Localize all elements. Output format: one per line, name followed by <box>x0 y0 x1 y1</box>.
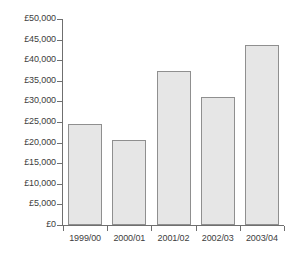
x-axis-tick-mark <box>196 226 197 231</box>
bar <box>157 71 191 225</box>
y-axis-tick-mark <box>57 81 62 82</box>
y-axis-tick-mark <box>57 60 62 61</box>
bar <box>201 97 235 225</box>
y-axis-label-group: £0£5,000£10,000£15,000£20,000£25,000£30,… <box>0 0 58 261</box>
y-axis-tick-label: £30,000 <box>0 96 56 105</box>
y-axis-tick-mark <box>57 184 62 185</box>
x-axis-tick-label: 2003/04 <box>237 233 287 243</box>
x-axis-tick-mark <box>107 226 108 231</box>
plot-area <box>63 19 284 225</box>
y-axis-tick-mark <box>57 19 62 20</box>
y-axis-tick-label: £25,000 <box>0 117 56 126</box>
x-axis-tick-mark <box>151 226 152 231</box>
y-axis-tick-label: £5,000 <box>0 199 56 208</box>
y-axis-tick-mark <box>57 122 62 123</box>
y-axis-tick-label: £10,000 <box>0 179 56 188</box>
y-axis-tick-label: £45,000 <box>0 35 56 44</box>
x-axis-tick-label: 2000/01 <box>104 233 154 243</box>
y-axis-tick-mark <box>57 40 62 41</box>
y-axis-tick-label: £40,000 <box>0 55 56 64</box>
x-axis-label-group: 1999/002000/012001/022002/032003/04 <box>63 233 293 249</box>
y-axis-tick-label: £15,000 <box>0 158 56 167</box>
x-axis-tick-mark <box>240 226 241 231</box>
y-axis-tick-mark <box>57 204 62 205</box>
y-axis-tick-mark <box>57 101 62 102</box>
x-axis-tick-label: 1999/00 <box>60 233 110 243</box>
y-axis-tick-label: £0 <box>0 220 56 229</box>
x-axis-line <box>62 225 284 226</box>
y-axis-tick-mark <box>57 143 62 144</box>
bar <box>68 124 102 225</box>
y-axis-tick-label: £20,000 <box>0 138 56 147</box>
y-axis-tick-mark <box>57 225 62 226</box>
x-axis-tick-label: 2002/03 <box>193 233 243 243</box>
bar <box>245 45 279 225</box>
x-axis-tick-label: 2001/02 <box>149 233 199 243</box>
bar <box>112 140 146 225</box>
y-axis-tick-mark <box>57 163 62 164</box>
x-axis-tick-mark <box>284 226 285 231</box>
y-axis-tick-label: £50,000 <box>0 14 56 23</box>
y-axis-tick-label: £35,000 <box>0 76 56 85</box>
x-axis-tick-mark <box>63 226 64 231</box>
bar-chart-figure: £0£5,000£10,000£15,000£20,000£25,000£30,… <box>0 0 298 261</box>
